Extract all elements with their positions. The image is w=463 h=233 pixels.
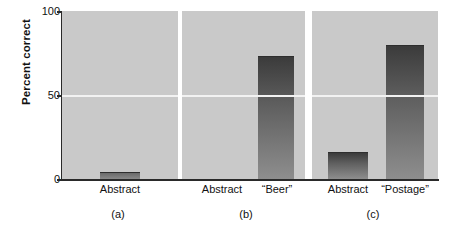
panel-b-caption: (b) xyxy=(239,208,252,220)
y-axis-tick-labels: 100 50 0 xyxy=(22,0,60,233)
y-tick-0: 0 xyxy=(26,174,60,185)
panel-c-xtick-abstract: Abstract xyxy=(328,183,368,195)
panel-a-xtick-abstract: Abstract xyxy=(100,183,140,195)
panel-b-xtick-beer: “Beer” xyxy=(262,183,293,195)
panel-c-bar-postage xyxy=(386,45,424,179)
y-tick-100: 100 xyxy=(26,6,60,17)
panel-c-plot-area xyxy=(312,11,438,179)
panel-a-bar-abstract xyxy=(100,172,140,179)
panel-c-xtick-postage: “Postage” xyxy=(381,183,429,195)
panel-c-bar-abstract xyxy=(328,152,368,179)
panel-b-plot-area xyxy=(182,11,305,179)
panel-a-plot-area xyxy=(62,11,178,179)
panel-b-xtick-abstract: Abstract xyxy=(202,183,242,195)
y-tick-50: 50 xyxy=(26,90,60,101)
panel-a-caption: (a) xyxy=(111,208,124,220)
panel-b-bar-beer xyxy=(258,56,294,179)
panel-c-caption: (c) xyxy=(367,208,380,220)
x-axis-line xyxy=(61,179,439,181)
bar-chart-figure: Percent correct 100 50 0 Abstract (a) Ab… xyxy=(0,0,463,233)
